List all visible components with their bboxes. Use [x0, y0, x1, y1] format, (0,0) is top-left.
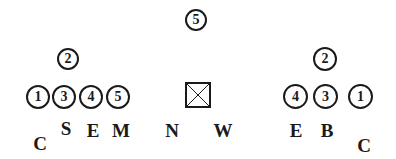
position-label-s: S	[61, 119, 72, 138]
position-label-e-right: E	[290, 121, 303, 140]
player-circle-top: 5	[185, 9, 207, 31]
player-circle-right-1: 4	[283, 84, 308, 109]
position-label-c-right: C	[357, 136, 371, 155]
player-circle-right-top: 2	[313, 47, 337, 71]
position-label-w: W	[214, 121, 233, 140]
player-circle-left-4: 5	[106, 85, 130, 109]
position-label-n: N	[165, 121, 179, 140]
position-label-e-left: E	[87, 121, 100, 140]
player-circle-right-3: 1	[348, 84, 373, 109]
player-circle-left-3: 4	[79, 85, 103, 109]
player-circle-left-1: 1	[26, 85, 50, 109]
player-circle-left-2: 3	[52, 85, 76, 109]
position-label-b: B	[321, 121, 334, 140]
player-circle-right-2: 3	[313, 84, 338, 109]
x-box-icon	[185, 82, 211, 108]
player-circle-left-top: 2	[57, 48, 79, 70]
position-label-m: M	[112, 121, 130, 140]
position-label-c-left: C	[33, 134, 47, 153]
